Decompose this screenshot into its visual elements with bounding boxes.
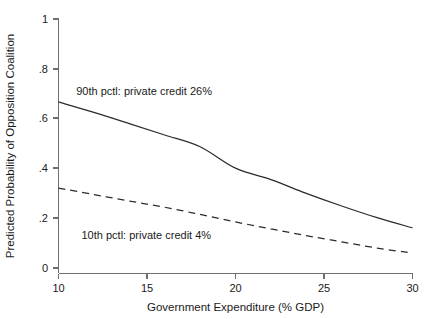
x-axis: 10 15 20 25 30 (52, 274, 418, 295)
x-axis-title: Government Expenditure (% GDP) (147, 301, 324, 313)
y-tick-label-0-6: .6 (39, 112, 48, 124)
x-tick-label-20: 20 (229, 282, 241, 294)
x-tick-label-10: 10 (52, 282, 64, 294)
y-tick-label-1: 1 (42, 13, 48, 25)
x-tick-label-30: 30 (406, 282, 418, 294)
y-axis: 1 .8 .6 .4 .2 0 (39, 13, 59, 274)
chart-plot-area: 1 .8 .6 .4 .2 0 10 15 20 25 30 90th pctl… (0, 0, 428, 319)
series-line-90th-pctl (59, 102, 413, 228)
y-tick-label-0-8: .8 (39, 63, 48, 75)
y-axis-title: Predicted Probability of Opposition Coal… (4, 34, 16, 258)
y-tick-label-0-4: .4 (39, 162, 48, 174)
x-tick-label-25: 25 (318, 282, 330, 294)
series-line-10th-pctl (59, 188, 413, 253)
y-tick-label-0: 0 (42, 262, 48, 274)
chart-container: 1 .8 .6 .4 .2 0 10 15 20 25 30 90th pctl… (0, 0, 428, 319)
series-annotation-10th-pctl: 10th pctl: private credit 4% (82, 229, 212, 241)
x-tick-label-15: 15 (141, 282, 153, 294)
y-tick-label-0-2: .2 (39, 212, 48, 224)
series-annotation-90th-pctl: 90th pctl: private credit 26% (76, 85, 212, 97)
